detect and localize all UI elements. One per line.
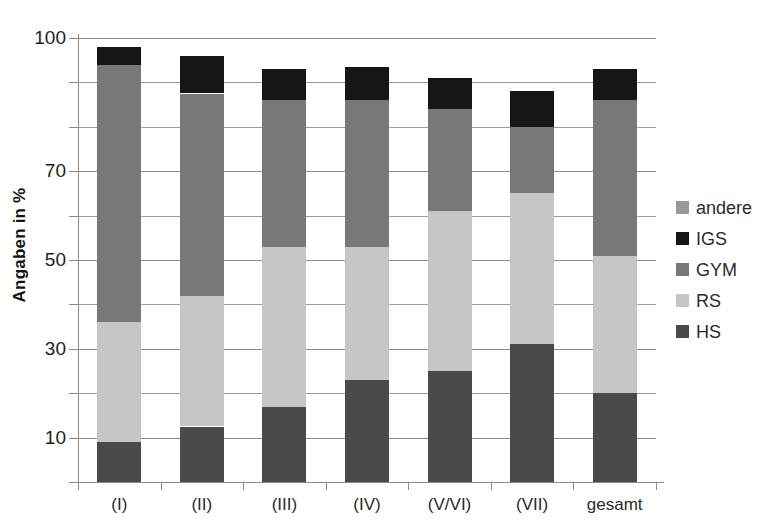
- bar-segment-hs[interactable]: [593, 393, 637, 482]
- bar-group[interactable]: [180, 38, 224, 482]
- bar-segment-gym[interactable]: [180, 94, 224, 296]
- legend-item[interactable]: HS: [676, 316, 765, 347]
- x-axis-tick: [573, 482, 574, 490]
- legend-item-label: IGS: [696, 230, 727, 248]
- bar-stack: [262, 38, 306, 482]
- legend-item[interactable]: andere: [676, 192, 765, 223]
- x-axis-label: (VII): [516, 495, 548, 515]
- bar-stack: [593, 38, 637, 482]
- y-axis-tick: [69, 482, 78, 483]
- y-axis-tick: [69, 216, 78, 217]
- legend-item-label: HS: [696, 323, 721, 341]
- legend-item-label: GYM: [696, 261, 737, 279]
- bar-segment-gym[interactable]: [97, 65, 141, 323]
- bar-segment-igs[interactable]: [428, 78, 472, 109]
- legend-swatch-icon: [676, 201, 689, 214]
- bar-segment-rs[interactable]: [428, 211, 472, 371]
- y-axis-tick: [69, 38, 78, 39]
- bar-segment-rs[interactable]: [593, 256, 637, 394]
- x-axis-line: [70, 482, 664, 483]
- y-axis-tick: [69, 349, 78, 350]
- y-axis-tick-labels: 10305070100: [0, 0, 66, 526]
- y-axis-tick: [69, 260, 78, 261]
- bar-group[interactable]: [262, 38, 306, 482]
- bar-segment-igs[interactable]: [593, 69, 637, 100]
- bar-stack: [180, 38, 224, 482]
- y-axis-tick: [69, 393, 78, 394]
- bar-segment-hs[interactable]: [97, 442, 141, 482]
- x-axis-label: (III): [272, 495, 298, 515]
- y-axis-tick: [69, 438, 78, 439]
- x-axis-label: (IV): [353, 495, 380, 515]
- bar-group[interactable]: [510, 38, 554, 482]
- y-axis-tick: [69, 304, 78, 305]
- bar-segment-rs[interactable]: [180, 296, 224, 427]
- bar-group[interactable]: [345, 38, 389, 482]
- bar-stack: [428, 38, 472, 482]
- x-axis-tick: [656, 482, 657, 490]
- stacked-bar-chart: Angaben in % 10305070100 andereIGSGYMRSH…: [0, 0, 765, 526]
- bar-segment-gym[interactable]: [428, 109, 472, 211]
- legend-swatch-icon: [676, 232, 689, 245]
- bar-stack: [345, 38, 389, 482]
- x-axis-label: (V/VI): [428, 495, 471, 515]
- chart-legend: andereIGSGYMRSHS: [676, 192, 765, 347]
- legend-swatch-icon: [676, 263, 689, 276]
- x-axis-label: (II): [191, 495, 212, 515]
- x-axis-tick: [78, 482, 79, 490]
- legend-item[interactable]: GYM: [676, 254, 765, 285]
- y-axis-tick-label: 10: [6, 427, 66, 449]
- bar-group[interactable]: [428, 38, 472, 482]
- legend-item[interactable]: RS: [676, 285, 765, 316]
- x-axis-label: (I): [111, 495, 127, 515]
- bar-segment-igs[interactable]: [345, 67, 389, 100]
- legend-item[interactable]: IGS: [676, 223, 765, 254]
- bar-group[interactable]: [97, 38, 141, 482]
- legend-swatch-icon: [676, 325, 689, 338]
- bar-group[interactable]: [593, 38, 637, 482]
- bar-segment-igs[interactable]: [180, 56, 224, 94]
- bar-segment-rs[interactable]: [345, 247, 389, 380]
- bar-segment-rs[interactable]: [97, 322, 141, 442]
- bar-segment-igs[interactable]: [262, 69, 306, 100]
- plot-area: [78, 38, 656, 482]
- x-axis-tick: [161, 482, 162, 490]
- x-axis-tick: [243, 482, 244, 490]
- y-axis-tick-label: 100: [6, 27, 66, 49]
- x-axis-tick: [491, 482, 492, 490]
- bar-segment-hs[interactable]: [262, 407, 306, 482]
- bar-segment-rs[interactable]: [510, 193, 554, 344]
- bar-stack: [97, 38, 141, 482]
- bar-segment-gym[interactable]: [593, 100, 637, 255]
- legend-item-label: andere: [696, 199, 752, 217]
- bar-segment-gym[interactable]: [262, 100, 306, 247]
- legend-swatch-icon: [676, 294, 689, 307]
- y-axis-tick: [69, 82, 78, 83]
- y-axis-tick-label: 30: [6, 338, 66, 360]
- x-axis-label: gesamt: [587, 495, 643, 515]
- bar-segment-gym[interactable]: [510, 127, 554, 194]
- bar-segment-hs[interactable]: [428, 371, 472, 482]
- y-axis-tick-label: 50: [6, 249, 66, 271]
- bar-segment-igs[interactable]: [97, 47, 141, 65]
- y-axis-tick: [69, 127, 78, 128]
- y-axis-tick: [69, 171, 78, 172]
- bar-segment-hs[interactable]: [510, 344, 554, 482]
- x-axis-tick: [408, 482, 409, 490]
- bar-segment-hs[interactable]: [180, 427, 224, 483]
- bar-segment-rs[interactable]: [262, 247, 306, 407]
- y-axis-tick-label: 70: [6, 160, 66, 182]
- x-axis-tick: [326, 482, 327, 490]
- legend-item-label: RS: [696, 292, 721, 310]
- bar-segment-igs[interactable]: [510, 91, 554, 127]
- bar-segment-gym[interactable]: [345, 100, 389, 247]
- bar-segment-hs[interactable]: [345, 380, 389, 482]
- bar-stack: [510, 38, 554, 482]
